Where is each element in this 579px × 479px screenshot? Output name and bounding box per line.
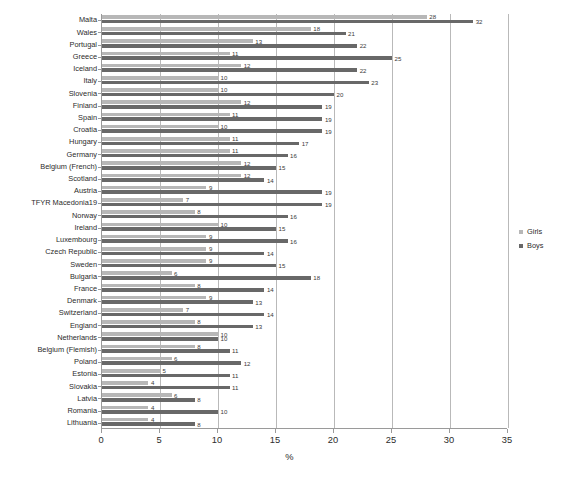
y-axis-label: Scotland [0,175,97,182]
bar-boys [102,105,322,109]
bar-girls [102,27,311,31]
y-axis-label: Wales [0,29,97,36]
bar-row: 1222 [102,63,507,74]
bar-row: 1119 [102,112,507,123]
bar-value-boys: 19 [325,104,332,110]
bar-boys [102,252,264,256]
bar-value-girls: 9 [209,295,212,301]
bar-girls [102,259,206,263]
bar-value-boys: 25 [395,56,402,62]
y-axis-label: Spain [0,114,97,121]
y-axis-label: Portugal [0,41,97,48]
bar-boys [102,313,264,317]
bar-value-boys: 10 [221,336,228,342]
y-axis-label: Norway [0,212,97,219]
y-axis-label: France [0,285,97,292]
bar-value-boys: 22 [360,43,367,49]
bar-girls [102,15,427,19]
bar-value-girls: 10 [221,87,228,93]
plot-area: 2832182113221125122210231020121911191019… [101,14,507,429]
bar-chart: MaltaWalesPortugalGreeceIcelandItalySlov… [0,0,579,479]
bar-row: 2832 [102,14,507,25]
bar-value-boys: 8 [197,397,200,403]
bar-boys [102,288,264,292]
y-axis-label: Slovenia [0,90,97,97]
bar-boys [102,422,195,426]
y-axis-label: Sweden [0,261,97,268]
bar-boys [102,264,276,268]
bar-value-girls: 18 [313,26,320,32]
y-axis-label: Iceland [0,65,97,72]
bar-row: 1125 [102,51,507,62]
bar-row: 68 [102,392,507,403]
bar-value-girls: 4 [151,405,154,411]
gridline-35 [508,14,509,428]
bar-value-girls: 13 [255,39,262,45]
bar-boys [102,154,288,158]
bar-row: 1821 [102,26,507,37]
bar-value-boys: 20 [337,92,344,98]
x-axis-tick [275,429,276,433]
bar-value-boys: 23 [371,80,378,86]
bar-girls [102,223,218,227]
x-axis-tick-label: 5 [139,436,179,445]
x-axis-tick-label: 0 [81,436,121,445]
bar-value-girls: 8 [197,283,200,289]
y-axis-label: Malta [0,16,97,23]
bar-value-girls: 6 [174,393,177,399]
bar-girls [102,174,241,178]
bar-boys [102,410,218,414]
y-axis-label: TFYR Macedonia19 [0,199,97,206]
bar-girls [102,320,195,324]
bar-boys [102,398,195,402]
bar-boys [102,349,230,353]
bar-value-boys: 19 [325,202,332,208]
bar-value-girls: 10 [221,75,228,81]
bar-boys [102,44,357,48]
bar-value-girls: 10 [221,222,228,228]
bar-girls [102,210,195,214]
bar-girls [102,406,148,410]
bar-girls [102,271,172,275]
bar-value-girls: 9 [209,234,212,240]
bar-row: 814 [102,283,507,294]
bar-boys [102,386,230,390]
bar-value-boys: 16 [290,214,297,220]
bar-row: 1116 [102,148,507,159]
x-axis-tick-label: 15 [255,436,295,445]
bar-value-boys: 11 [232,348,238,354]
y-axis-label: Belgium (French) [0,163,97,170]
bar-girls [102,247,206,251]
bar-boys [102,203,322,207]
bar-girls [102,161,241,165]
x-axis-tick [217,429,218,433]
legend-label-girls: Girls [527,228,542,235]
bar-value-boys: 18 [313,275,320,281]
bar-girls [102,345,195,349]
legend-item-boys: Boys [519,242,543,249]
bar-row: 48 [102,417,507,428]
y-axis-label: Luxembourg [0,236,97,243]
x-axis-tick-label: 35 [487,436,527,445]
bar-girls [102,52,230,56]
bar-row: 813 [102,319,507,330]
bar-girls [102,198,183,202]
y-axis-label: Greece [0,53,97,60]
x-axis-tick-label: 25 [371,436,411,445]
bar-value-girls: 5 [163,368,166,374]
bar-girls [102,125,218,129]
bar-row: 914 [102,246,507,257]
bar-girls [102,418,148,422]
bar-girls [102,369,160,373]
bar-girls [102,186,206,190]
y-axis-label: Latvia [0,395,97,402]
bar-value-girls: 9 [209,246,212,252]
bar-value-boys: 8 [197,422,200,428]
bar-value-boys: 19 [325,117,332,123]
x-axis-tick-label: 30 [429,436,469,445]
bar-boys [102,117,322,121]
bar-boys [102,178,264,182]
legend-item-girls: Girls [519,228,543,235]
x-axis-title: % [0,452,579,462]
y-axis-label: Austria [0,187,97,194]
